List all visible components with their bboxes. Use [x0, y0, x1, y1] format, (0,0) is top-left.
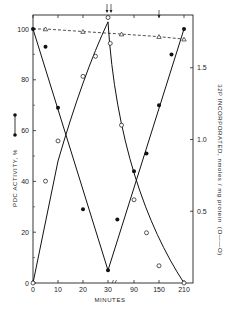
y-axis-right-title-text: 32P INCORPORATED, nmoles / mg protein [217, 84, 223, 222]
annotation-arrows [106, 4, 161, 18]
left-legend-symbol [13, 113, 17, 137]
plot-frame [33, 15, 193, 283]
y-left-tick-label: 100 [17, 26, 29, 33]
series-layer [31, 16, 186, 285]
p32-rise-curve [33, 22, 108, 283]
y-left-tick-label: 40 [21, 178, 29, 185]
y-axis-right-title: 32P INCORPORATED, nmoles / mg protein (O… [217, 84, 223, 256]
x-axis-title: MINUTES [94, 297, 125, 303]
x-tick-label: 10 [54, 286, 62, 293]
open-circle-marker [81, 74, 85, 78]
y-left-tick-label: 0 [25, 280, 29, 287]
filled-circle-marker [106, 268, 110, 272]
y-left-tick-label: 20 [21, 229, 29, 236]
y-left-tick-label: 80 [21, 76, 29, 83]
triangle-marker [182, 37, 186, 41]
arrow-down-icon [158, 10, 161, 18]
open-circle-marker [56, 139, 60, 143]
x-tick-label: 90 [130, 286, 138, 293]
open-circle-marker [120, 123, 124, 127]
y-axis-left-title-group: PDC ACTIVITY, % [12, 149, 18, 207]
y-right-tick-label: 1.5 [197, 64, 207, 71]
filled-circle-marker [170, 52, 174, 56]
open-circle-marker [182, 281, 186, 285]
filled-circle-marker [145, 151, 149, 155]
open-circle-marker [44, 179, 48, 183]
y-right-tick-label: 0.5 [197, 208, 207, 215]
y-axis-right: 0.51.01.5 [190, 64, 207, 215]
x-tick-label: 20 [79, 286, 87, 293]
y-axis-right-legend: (O——O) [217, 227, 223, 256]
filled-circle-marker [44, 45, 48, 49]
y-axis-right-title-group: 32P INCORPORATED, nmoles / mg protein (O… [217, 84, 223, 256]
open-circle-marker [108, 41, 112, 45]
filled-circle-marker [182, 27, 186, 31]
open-circle-marker [157, 264, 161, 268]
y-axis-left-title: PDC ACTIVITY, % [12, 149, 18, 207]
arrow-down-icon [106, 4, 113, 13]
pdc-decline-line [33, 29, 108, 270]
y-right-tick-label: 1.0 [197, 136, 207, 143]
x-tick-label: 0 [31, 286, 35, 293]
axis-break-mark [112, 280, 117, 283]
filled-circle-marker [56, 106, 60, 110]
open-circle-marker [31, 281, 35, 285]
x-tick-label: 150 [153, 286, 165, 293]
chart: 010203090150210 020406080100 0.51.01.5 M… [0, 0, 226, 316]
filled-circle-marker [31, 27, 35, 31]
x-tick-label: 210 [178, 286, 190, 293]
open-circle-marker [145, 231, 149, 235]
filled-circle-marker [115, 218, 119, 222]
filled-circle-marker [81, 207, 85, 211]
open-circle-marker [132, 198, 136, 202]
x-tick-label: 30 [104, 286, 112, 293]
open-circle-marker [94, 54, 98, 58]
y-left-tick-label: 60 [21, 127, 29, 134]
open-circle-marker [106, 16, 110, 20]
filled-circle-marker [132, 169, 136, 173]
filled-circle-marker [157, 103, 161, 107]
